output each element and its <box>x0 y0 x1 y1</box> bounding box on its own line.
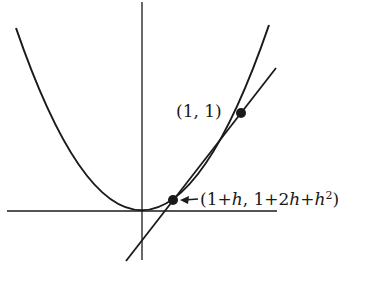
label-part-h: h <box>289 189 300 209</box>
diagram-graphics <box>0 0 369 285</box>
label-part: , 1+2 <box>243 189 290 209</box>
point-1-1 <box>236 108 246 118</box>
label-part-h: h <box>315 189 326 209</box>
label-part: (1+ <box>200 189 232 209</box>
label-point-1-1: (1, 1) <box>176 103 222 120</box>
arrow-head-icon <box>180 196 189 204</box>
label-exponent: 2 <box>326 189 333 202</box>
secant-line <box>126 68 276 261</box>
label-point-1-plus-h: (1+h, 1+2h+h2) <box>200 190 339 208</box>
label-part-h: h <box>232 189 243 209</box>
point-1-plus-h <box>168 195 178 205</box>
label-part: + <box>300 189 314 209</box>
label-part: ) <box>333 189 340 209</box>
parabola-secant-diagram: (1, 1) (1+h, 1+2h+h2) <box>0 0 369 285</box>
